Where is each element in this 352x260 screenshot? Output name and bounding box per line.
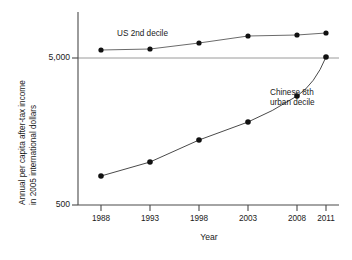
y-tick-label-500: 500 — [28, 199, 70, 209]
data-point-us-2011 — [323, 30, 328, 35]
data-point-us-2003 — [245, 33, 250, 38]
x-tick-label-2003: 2003 — [228, 214, 268, 223]
data-point-china-2003 — [245, 119, 251, 125]
x-axis-title: Year — [78, 232, 340, 242]
data-point-us-1998 — [196, 40, 201, 45]
chart-figure: Annual per capita after-tax income in 20… — [0, 0, 352, 260]
series-annotation-chinese-line1: Chinese 8th — [270, 88, 315, 98]
data-point-china-1998 — [196, 137, 202, 143]
data-point-china-1993 — [147, 159, 153, 165]
y-tick-label-5000: 5,000 — [28, 52, 70, 62]
x-tick-label-1998: 1998 — [179, 214, 219, 223]
series-annotation-chinese-8th-urban-decile: Chinese 8th urban decile — [270, 88, 315, 108]
y-axis-title-line2: in 2005 international dollars — [29, 5, 40, 205]
x-tick-label-2011: 2011 — [306, 214, 346, 223]
data-point-us-2008 — [294, 32, 299, 37]
data-point-us-1993 — [147, 46, 152, 51]
x-tick-label-1993: 1993 — [130, 214, 170, 223]
data-point-china-2011 — [323, 54, 329, 60]
x-tick-label-1988: 1988 — [81, 214, 121, 223]
data-point-us-1988 — [98, 47, 103, 52]
series-annotation-chinese-line2: urban decile — [270, 98, 315, 108]
data-point-china-1988 — [98, 173, 104, 179]
y-axis-title-line1: Annual per capita after-tax income — [18, 5, 29, 205]
y-axis-title: Annual per capita after-tax income in 20… — [18, 5, 48, 205]
series-annotation-us-2nd-decile: US 2nd decile — [117, 29, 168, 39]
